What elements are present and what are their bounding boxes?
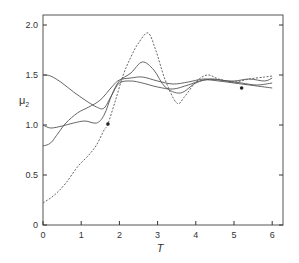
x-axis-label: T (157, 242, 165, 254)
series-line-curve-start-1.5 (43, 75, 272, 109)
plot-frame (43, 15, 283, 225)
x-tick-label: 5 (231, 230, 236, 240)
x-tick-label: 1 (79, 230, 84, 240)
dot-marker (240, 86, 244, 90)
x-tick-label: 3 (155, 230, 160, 240)
y-tick-label: 0.5 (25, 170, 38, 180)
x-tick-label: 6 (270, 230, 275, 240)
y-tick-label: 1.5 (25, 70, 38, 80)
y-tick-label: 0 (33, 220, 38, 230)
dot-marker (106, 122, 110, 126)
x-tick-label: 4 (193, 230, 198, 240)
x-axis-ticks: 0123456 (40, 221, 274, 240)
line-chart: 0123456 00.51.01.52.0 T μ2 (0, 0, 299, 263)
data-series (43, 33, 272, 203)
y-tick-label: 2.0 (25, 20, 38, 30)
y-axis-label: μ2 (19, 94, 29, 108)
x-tick-label: 2 (117, 230, 122, 240)
series-line-curve-dashed-start-0.22 (43, 33, 272, 203)
x-tick-label: 0 (40, 230, 45, 240)
y-tick-label: 1.0 (25, 120, 38, 130)
